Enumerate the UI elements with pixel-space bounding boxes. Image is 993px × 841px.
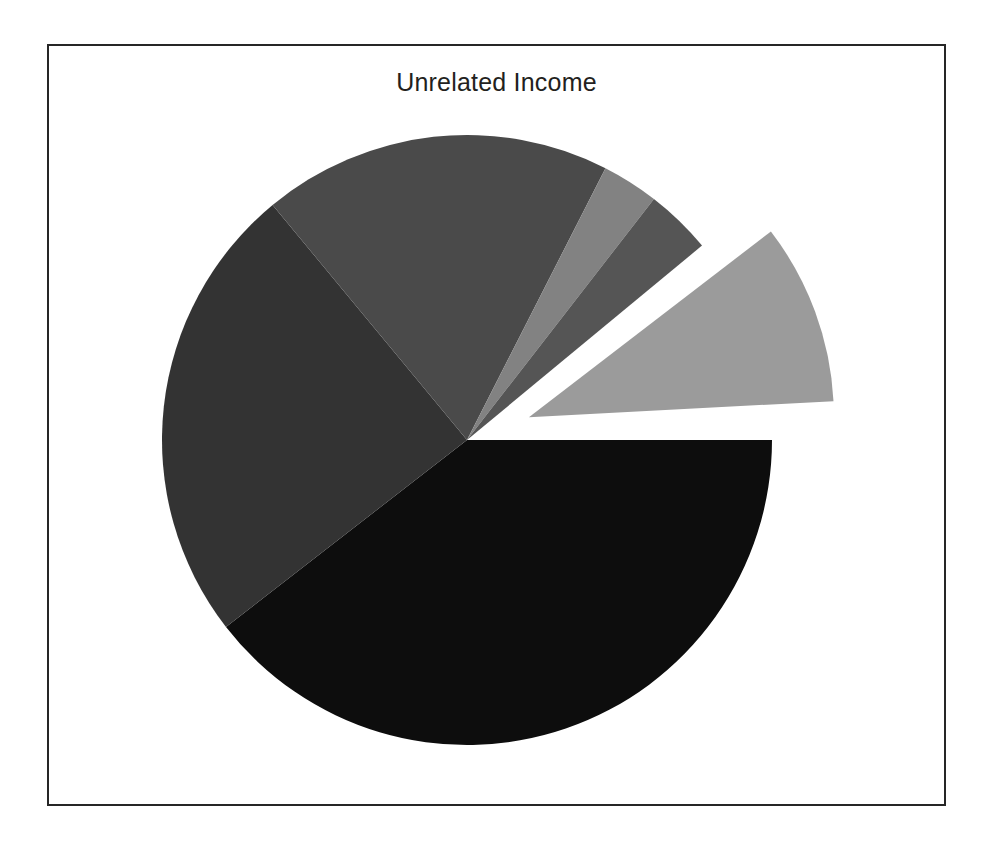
chart-title: Unrelated Income [47, 68, 946, 97]
pie-chart [47, 44, 946, 806]
chart-figure: Unrelated Income [0, 0, 993, 841]
pie-slices-group [162, 135, 834, 745]
